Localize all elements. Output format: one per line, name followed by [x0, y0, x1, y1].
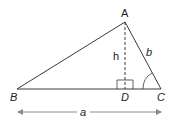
- angle-c-arc: [143, 73, 152, 89]
- side-ac: [125, 22, 161, 89]
- vertex-label-a: A: [121, 7, 129, 19]
- vertex-label-b: B: [10, 91, 17, 103]
- side-label-b: b: [146, 46, 152, 58]
- altitude-label-h: h: [113, 50, 119, 62]
- vertex-label-c: C: [157, 91, 165, 103]
- triangle-diagram: A B C D h b a: [0, 0, 175, 127]
- side-ab: [17, 22, 125, 89]
- vertex-label-d: D: [121, 91, 129, 103]
- base-label-a: a: [80, 106, 86, 118]
